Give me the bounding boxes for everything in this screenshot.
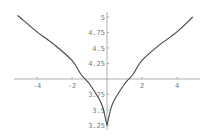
- y-ticks: 54.754.54.253.753.53.25: [88, 14, 109, 131]
- y-tick-label: 3.25: [88, 122, 105, 130]
- y-tick-label: 4.5: [92, 45, 105, 53]
- function-curve: [18, 15, 193, 125]
- y-tick-label: 5: [101, 14, 105, 22]
- x-tick-label: 4: [175, 82, 179, 90]
- x-tick-label: -4: [33, 82, 41, 90]
- y-tick-label: 4.75: [88, 29, 105, 37]
- x-tick-label: -2: [68, 82, 76, 90]
- y-tick-label: 4.25: [88, 60, 105, 68]
- x-tick-label: 2: [140, 82, 144, 90]
- function-plot: -4-224 54.754.54.253.753.53.25: [0, 0, 210, 138]
- axes: [14, 12, 200, 130]
